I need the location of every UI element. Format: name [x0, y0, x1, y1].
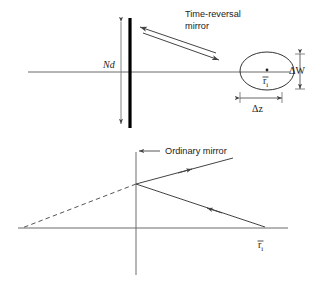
- time-reversal-mirror-label-line1: Time-reversal: [185, 9, 241, 19]
- mirror-height-label: Nd: [102, 59, 116, 70]
- reflected-ray-up-arrowhead: [178, 169, 192, 173]
- figure-container: Nd Time-reversal mirror ri ΔW Δz: [0, 0, 314, 285]
- delta-w-label: ΔW: [289, 65, 305, 76]
- scatterer-position-label-sub: i: [266, 81, 268, 89]
- virtual-image-dashed-line: [22, 184, 136, 228]
- scatterer-center-dot: [266, 69, 269, 72]
- incident-ray-down: [136, 184, 265, 227]
- incident-ray-arrowhead: [207, 208, 222, 213]
- diagram-svg: Nd Time-reversal mirror ri ΔW Δz: [0, 0, 314, 285]
- time-reversal-mirror-label-line2: mirror: [185, 21, 209, 31]
- ordinary-mirror-label: Ordinary mirror: [165, 146, 227, 156]
- incoming-ray-arrow: [143, 33, 219, 60]
- bottom-position-label-sub: i: [261, 245, 263, 253]
- delta-z-label: Δz: [252, 103, 263, 114]
